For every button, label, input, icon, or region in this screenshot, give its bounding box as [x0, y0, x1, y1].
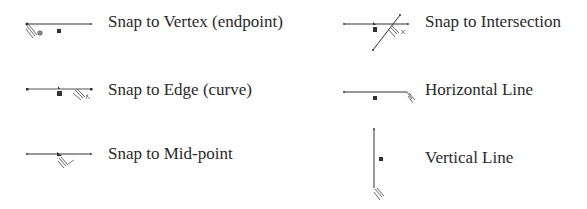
vertical-line-icon — [0, 0, 587, 209]
legend-label-vertical: Vertical Line — [425, 148, 513, 168]
